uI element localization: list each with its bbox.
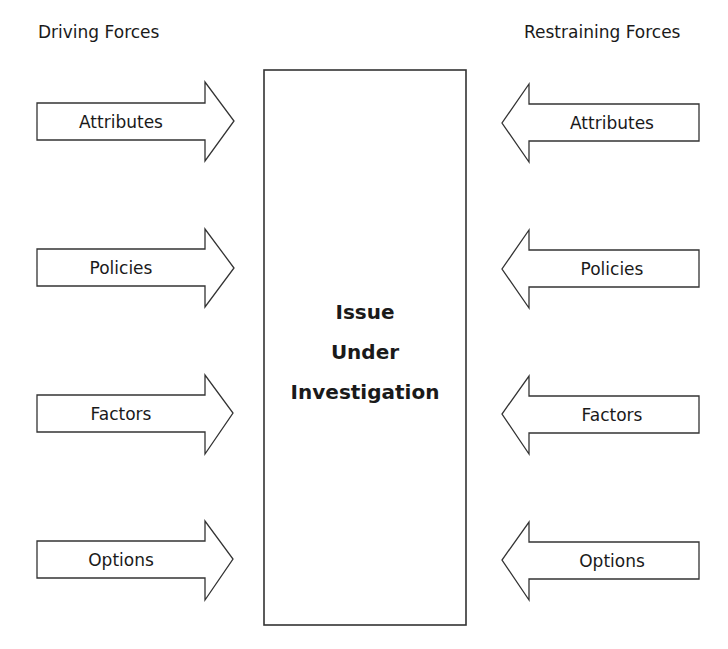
restraining-label-options: Options xyxy=(579,551,645,571)
issue-line-1: Issue xyxy=(264,292,466,332)
driving-label-options: Options xyxy=(88,550,154,570)
restraining-label-factors: Factors xyxy=(582,405,643,425)
issue-title: Issue Under Investigation xyxy=(264,292,466,412)
issue-line-3: Investigation xyxy=(264,372,466,412)
restraining-label-policies: Policies xyxy=(581,259,644,279)
issue-line-2: Under xyxy=(264,332,466,372)
driving-label-attributes: Attributes xyxy=(79,112,163,132)
driving-label-policies: Policies xyxy=(90,258,153,278)
driving-label-factors: Factors xyxy=(91,404,152,424)
restraining-label-attributes: Attributes xyxy=(570,113,654,133)
